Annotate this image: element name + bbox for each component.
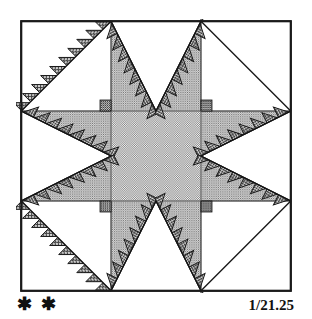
feathered-star-block-diagram <box>16 19 296 293</box>
caption-row: ✱ ✱ 1/21.25 <box>0 292 312 319</box>
feather-corner-square-sw <box>100 201 111 212</box>
feather-corner-square-se <box>201 201 212 212</box>
block-number: 1/21.25 <box>249 294 294 316</box>
difficulty-rating: ✱ ✱ <box>17 292 58 316</box>
center-square <box>111 111 201 201</box>
feather-corner-square-nw <box>100 100 111 111</box>
quilt-block-figure: ✱ ✱ 1/21.25 <box>0 0 312 319</box>
feather-corner-square-ne <box>201 100 212 111</box>
